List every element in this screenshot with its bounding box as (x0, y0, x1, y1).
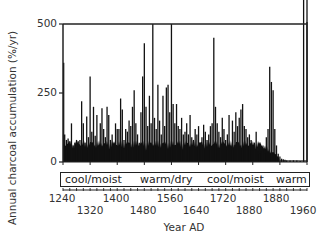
x-tick-label-1880b: 1880 (236, 204, 263, 216)
regime-label-warm-dry: warm/dry (140, 173, 193, 186)
x-tick-label-1560: 1560 (157, 192, 184, 204)
y-axis-label: Annual charcoal accumulation (%/yr) (6, 31, 18, 225)
regime-label-warm: warm (276, 173, 307, 186)
y-tick-label-500: 500 (27, 17, 57, 29)
regime-label-cool-moist-2: cool/moist (207, 173, 264, 186)
plot-area (0, 0, 323, 244)
x-axis-label: Year AD (164, 221, 205, 233)
y-tick-label-250: 250 (27, 86, 57, 98)
x-tick-label-1720: 1720 (210, 192, 237, 204)
x-tick-label-1320: 1320 (77, 204, 104, 216)
x-tick-label-1960: 1960 (290, 204, 317, 216)
x-tick-label-1480: 1480 (130, 204, 157, 216)
x-tick-label-1400: 1400 (103, 192, 130, 204)
charcoal-accumulation-chart: Annual charcoal accumulation (%/yr) 500 … (0, 0, 323, 244)
climate-regime-bar: cool/moist warm/dry cool/moist warm (60, 172, 310, 187)
y-tick-label-0: 0 (27, 155, 57, 167)
x-tick-label-1880: 1880 (263, 192, 290, 204)
x-tick-label-1240: 1240 (49, 192, 76, 204)
regime-label-cool-moist-1: cool/moist (65, 173, 122, 186)
x-tick-label-1640: 1640 (183, 204, 210, 216)
